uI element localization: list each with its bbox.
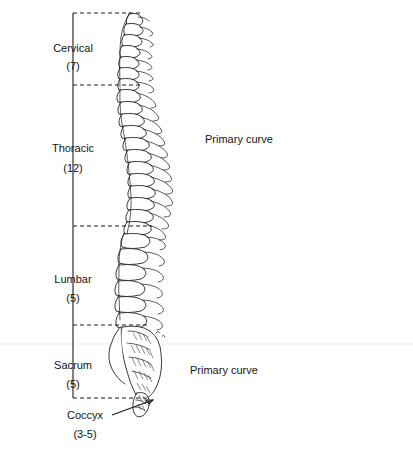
cervical-vertebrae-group	[118, 13, 154, 93]
region-label-cervical: Cervical	[53, 42, 93, 54]
sacrum-group	[109, 326, 165, 399]
lumbar-vertebrae-group	[115, 233, 166, 330]
region-label-thoracic: Thoracic	[52, 142, 95, 154]
thoracic-vertebrae-group	[117, 89, 173, 240]
region-count-cervical: (7)	[66, 60, 79, 72]
callout-count-coccyx: (3-5)	[73, 428, 96, 440]
region-count-thoracic: (12)	[63, 162, 83, 174]
region-count-sacrum: (5)	[66, 378, 79, 390]
region-label-lumbar: Lumbar	[54, 273, 92, 285]
annotation-primary-curve-thoracic: Primary curve	[205, 133, 273, 145]
region-label-sacrum: Sacrum	[54, 359, 92, 371]
spine-illustration	[109, 13, 173, 417]
annotation-primary-curve-sacral: Primary curve	[190, 364, 258, 376]
vertebral-column-figure: Cervical (7) Thoracic (12) Lumbar (5) Sa…	[0, 0, 413, 451]
callout-label-coccyx: Coccyx	[67, 409, 104, 421]
region-count-lumbar: (5)	[66, 292, 79, 304]
region-annotations: Cervical (7) Thoracic (12) Lumbar (5) Sa…	[52, 13, 273, 440]
